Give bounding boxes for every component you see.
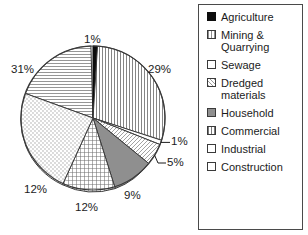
legend-label-sewage: Sewage bbox=[221, 59, 261, 71]
pie-plot-area: 1% 29% 1% 5% 9% 12% 12% 31% bbox=[0, 0, 186, 235]
pie-label-dredged-materials: 5% bbox=[167, 156, 184, 168]
legend-item-household[interactable]: Household bbox=[207, 107, 298, 119]
pie-label-sewage: 1% bbox=[171, 135, 188, 147]
solid-black-swatch-icon bbox=[207, 12, 216, 21]
legend-label-construction: Construction bbox=[221, 161, 283, 173]
pie-label-mining-quarrying: 29% bbox=[148, 63, 171, 75]
leader-line-dredged bbox=[155, 155, 167, 163]
legend-item-commercial[interactable]: Commercial bbox=[207, 125, 298, 137]
pie-label-agriculture: 1% bbox=[84, 33, 101, 45]
legend-label-mining-quarrying: Mining & Quarrying bbox=[221, 29, 269, 53]
solid-white-swatch-icon bbox=[207, 60, 216, 69]
pie-label-construction: 31% bbox=[11, 63, 34, 75]
dotted-swatch-icon bbox=[207, 144, 216, 153]
pie-label-industrial: 12% bbox=[24, 183, 47, 195]
pie-chart-figure: 1% 29% 1% 5% 9% 12% 12% 31% Agriculture … bbox=[0, 0, 308, 235]
legend-label-dredged-materials: Dredged materials bbox=[221, 77, 266, 101]
legend-item-industrial[interactable]: Industrial bbox=[207, 143, 298, 155]
legend-item-construction[interactable]: Construction bbox=[207, 161, 298, 173]
pie-slices bbox=[21, 46, 165, 192]
vertical-lines-swatch-icon bbox=[207, 30, 216, 39]
chart-legend: Agriculture Mining & Quarrying Sewage Dr… bbox=[198, 4, 303, 230]
solid-gray-swatch-icon bbox=[207, 108, 216, 117]
legend-label-commercial: Commercial bbox=[221, 125, 280, 137]
legend-label-agriculture: Agriculture bbox=[221, 11, 274, 23]
legend-label-industrial: Industrial bbox=[221, 143, 266, 155]
crosshatch-swatch-icon bbox=[207, 126, 216, 135]
legend-label-household: Household bbox=[221, 107, 274, 119]
pie-label-commercial: 12% bbox=[75, 201, 98, 213]
pie-label-household: 9% bbox=[124, 189, 141, 201]
legend-item-agriculture[interactable]: Agriculture bbox=[207, 11, 298, 23]
horizontal-lines-swatch-icon bbox=[207, 162, 216, 171]
legend-item-dredged-materials[interactable]: Dredged materials bbox=[207, 77, 298, 101]
legend-item-mining-quarrying[interactable]: Mining & Quarrying bbox=[207, 29, 298, 53]
legend-item-sewage[interactable]: Sewage bbox=[207, 59, 298, 71]
diagonal-hatch-swatch-icon bbox=[207, 78, 216, 87]
